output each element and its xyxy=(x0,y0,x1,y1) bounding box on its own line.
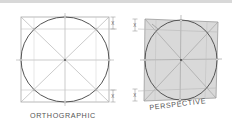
dimension-markers xyxy=(111,17,138,102)
perspective-figure xyxy=(138,15,222,104)
ortho-center-point xyxy=(64,59,66,61)
diagram-canvas: X X X X xyxy=(0,0,232,125)
persp-center-point xyxy=(180,59,182,61)
orthographic-figure xyxy=(16,13,117,106)
dim-x-persp-bottom: X xyxy=(133,93,136,98)
orthographic-label: ORTHOGRAPHIC xyxy=(30,111,96,120)
dimension-labels: X X X X xyxy=(111,21,136,99)
dim-x-ortho-bottom: X xyxy=(111,94,114,99)
dim-x-persp-top: X xyxy=(133,23,136,28)
dim-x-ortho-top: X xyxy=(111,21,114,26)
